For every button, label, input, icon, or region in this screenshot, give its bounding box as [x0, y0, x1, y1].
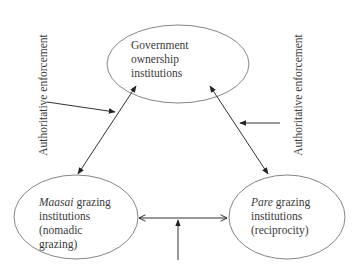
maasai-government-arrow	[78, 86, 136, 174]
government-node-text: Government ownership institutions	[131, 38, 188, 80]
government-line-3: institutions	[131, 66, 188, 80]
maasai-line-1: Maasai grazing	[39, 195, 111, 209]
pare-line-3: (reciprocity)	[251, 223, 310, 237]
right-enforcement-label: Authoritative enforcement	[292, 25, 304, 165]
left-enforcement-arrow	[47, 102, 115, 112]
maasai-line-2: institutions	[39, 209, 111, 223]
pare-line-1: Pare grazing	[251, 195, 310, 209]
pare-italic: Pare	[251, 196, 273, 208]
maasai-italic: Maasai	[39, 196, 74, 208]
pare-node-text: Pare grazing institutions (reciprocity)	[251, 195, 310, 237]
maasai-node-text: Maasai grazing institutions (nomadic gra…	[39, 195, 111, 251]
government-line-1: Government	[131, 38, 188, 52]
pare-line-2: institutions	[251, 209, 310, 223]
government-line-2: ownership	[131, 52, 188, 66]
government-pare-arrow	[210, 86, 268, 174]
left-enforcement-label: Authoritative enforcement	[37, 25, 49, 165]
maasai-line-4: grazing)	[39, 237, 111, 251]
maasai-line-1-rest: grazing	[74, 196, 111, 208]
pare-line-1-rest: grazing	[273, 196, 310, 208]
maasai-line-3: (nomadic	[39, 223, 111, 237]
